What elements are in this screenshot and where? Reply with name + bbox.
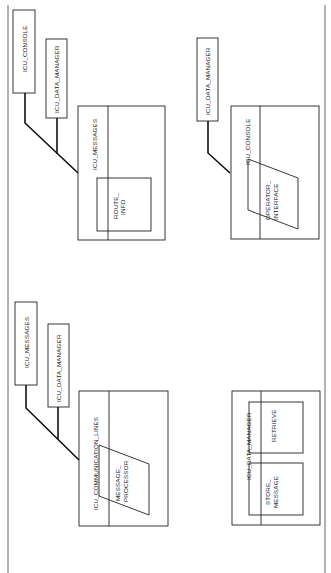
import-connector: [208, 121, 230, 173]
module-icu-console: ICU_DATA_MANAGER ICU_CONSOLE OPERATOR_ I…: [197, 38, 319, 239]
inner-unit-route-info: ROUTE_ INFO: [97, 178, 151, 231]
inner-unit-retrieve: RETRIEVE: [249, 402, 303, 453]
unit-label-line1: STORE_: [264, 479, 271, 505]
import-box-icu-data-manager: ICU_DATA_MANAGER: [46, 39, 67, 118]
import-label: ICU_DATA_MANAGER: [53, 45, 60, 113]
import-label: ICU_CONSOLE: [21, 25, 28, 72]
unit-label-line1: ROUTE_: [112, 192, 119, 219]
import-box-icu-messages: ICU_MESSAGES: [15, 302, 37, 385]
module-title: ICU_CONSOLE: [244, 118, 251, 165]
module-title: ICU_MESSAGES: [91, 119, 98, 170]
inner-unit-message-processor: MESSAGE_ PROCESSOR: [99, 445, 149, 515]
unit-label-line1: RETRIEVE: [270, 409, 277, 442]
import-box-icu-data-manager: ICU_DATA_MANAGER: [48, 324, 69, 407]
import-label: ICU_DATA_MANAGER: [55, 334, 62, 402]
import-box-icu-data-manager: ICU_DATA_MANAGER: [197, 38, 218, 121]
import-connector: [26, 385, 79, 460]
import-label: ICU_MESSAGES: [23, 317, 30, 368]
unit-label-line2: INTERFACE: [272, 183, 279, 220]
module-title: ICU_COMMUNICATION_LINES: [92, 417, 99, 510]
unit-label-line2: INFO: [119, 199, 126, 215]
import-box-icu-console: ICU_CONSOLE: [13, 10, 35, 93]
module-icu-communication-lines: ICU_MESSAGES ICU_DATA_MANAGER ICU_COMMUN…: [15, 302, 168, 526]
module-icu-messages: ICU_CONSOLE ICU_DATA_MANAGER ICU_MESSAGE…: [13, 10, 165, 240]
module-icu-data-manager: ICU_DATA_MANAGER RETRIEVE STORE_ MESSAGE: [232, 391, 320, 525]
module-title: ICU_DATA_MANAGER: [245, 412, 252, 480]
unit-label-line1: OPERATOR_: [264, 180, 271, 220]
unit-label-line1: MESSAGE_: [114, 465, 121, 501]
unit-label-line2: PROCESSOR: [122, 460, 129, 502]
unit-label-line2: MESSAGE: [272, 476, 279, 508]
import-connector: [25, 93, 78, 173]
import-label: ICU_DATA_MANAGER: [204, 47, 211, 115]
module-diagram: ICU_CONSOLE ICU_DATA_MANAGER ICU_MESSAGE…: [0, 0, 331, 573]
inner-unit-store-message: STORE_ MESSAGE: [249, 463, 303, 515]
inner-unit-operator-interface: OPERATOR_ INTERFACE: [248, 159, 298, 229]
